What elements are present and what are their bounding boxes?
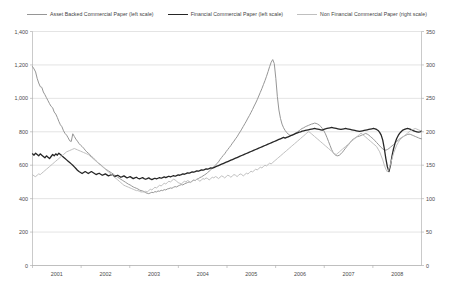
left-axis-tick-label: 200 xyxy=(19,229,28,235)
right-axis-tick-label: 300 xyxy=(426,62,435,68)
left-axis-tick-label: 800 xyxy=(19,129,28,135)
x-axis-tick-label: 2003 xyxy=(148,271,160,277)
x-axis-tick-label: 2001 xyxy=(51,271,63,277)
x-axis-tick-label: 2005 xyxy=(245,271,257,277)
x-axis-tick-label: 2007 xyxy=(343,271,355,277)
commercial-paper-outstanding-chart: Asset Backed Commercial Paper (left scal… xyxy=(0,0,454,289)
left-axis-tick-labels: 02004006008001,0001,2001,400 xyxy=(15,29,29,269)
right-axis-tick-label: 250 xyxy=(426,95,435,101)
x-axis-tick-label: 2002 xyxy=(99,271,111,277)
x-axis-tick-label: 2006 xyxy=(294,271,306,277)
right-axis-tick-label: 100 xyxy=(426,196,435,202)
right-axis-tick-label: 200 xyxy=(426,129,435,135)
left-axis-tick-label: 400 xyxy=(19,196,28,202)
chart-canvas: 02004006008001,0001,2001,400 05010015020… xyxy=(0,0,454,289)
left-axis-tick-label: 1,400 xyxy=(15,29,29,35)
right-axis-tick-label: 150 xyxy=(426,162,435,168)
right-axis-tick-label: 50 xyxy=(426,229,432,235)
right-axis-tick-label: 0 xyxy=(426,263,429,269)
axes xyxy=(30,32,424,266)
left-axis-tick-label: 1,200 xyxy=(15,62,29,68)
x-axis-tick-labels: 20012002200320042005200620072008 xyxy=(33,266,404,277)
series-line-2 xyxy=(33,128,422,192)
x-axis-tick-label: 2004 xyxy=(197,271,209,277)
series-line-0 xyxy=(33,60,422,194)
x-axis-tick-label: 2008 xyxy=(391,271,403,277)
plot-area: 02004006008001,0001,2001,400 05010015020… xyxy=(0,0,454,289)
right-axis-tick-label: 350 xyxy=(426,29,435,35)
left-axis-tick-label: 600 xyxy=(19,162,28,168)
left-axis-tick-label: 0 xyxy=(25,263,28,269)
data-series xyxy=(33,60,422,194)
gridlines xyxy=(33,32,422,266)
left-axis-tick-label: 1,000 xyxy=(15,95,29,101)
right-axis-tick-labels: 050100150200250300350 xyxy=(426,29,435,269)
